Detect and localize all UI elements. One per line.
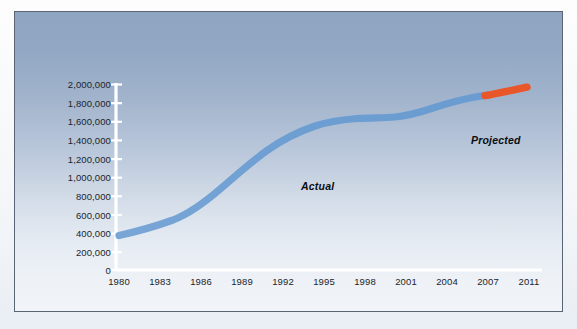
chart-page: 2,000,000 1,800,000 1,600,000 1,400,000 … — [0, 0, 577, 329]
chart-panel: 2,000,000 1,800,000 1,600,000 1,400,000 … — [14, 11, 563, 312]
x-tick-label: 1986 — [190, 276, 212, 287]
annotation-actual: Actual — [301, 180, 334, 192]
x-tick-label: 2011 — [519, 276, 540, 287]
x-tick-label: 2004 — [436, 276, 458, 287]
x-tick-label: 2001 — [395, 276, 417, 287]
x-tick-label: 1980 — [108, 276, 130, 287]
x-tick-label: 1989 — [231, 276, 253, 287]
x-tick-label: 2007 — [477, 276, 499, 287]
x-tick-label: 1992 — [272, 276, 294, 287]
x-axis-tick-labels: 1980 1983 1986 1989 1992 1995 1998 2001 … — [15, 12, 563, 312]
x-tick-label: 1983 — [149, 276, 171, 287]
x-tick-label: 1998 — [354, 276, 376, 287]
x-tick-label: 1995 — [313, 276, 335, 287]
annotation-projected: Projected — [471, 134, 521, 146]
